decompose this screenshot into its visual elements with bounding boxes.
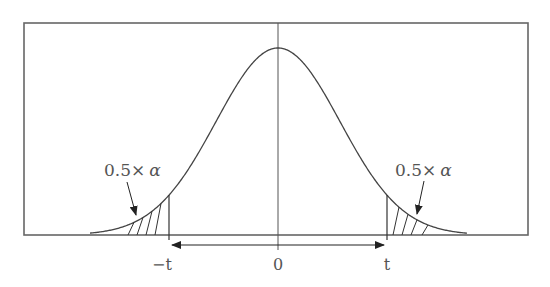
hatch-line bbox=[402, 214, 408, 235]
hatch-line bbox=[393, 207, 399, 235]
right-tail-pointer-arrow bbox=[417, 181, 424, 214]
zero-label: 0 bbox=[273, 255, 283, 274]
neg-t-label: −t bbox=[152, 255, 172, 274]
diagram-canvas: 0.5×α 0.5×α −t 0 t bbox=[0, 0, 550, 287]
right-tail-label: 0.5×α bbox=[395, 160, 452, 180]
right-tail-label-prefix: 0.5× bbox=[395, 160, 436, 180]
left-tail-pointer-arrow bbox=[127, 182, 136, 215]
left-tail-label-prefix: 0.5× bbox=[104, 160, 145, 180]
pos-t-label: t bbox=[384, 255, 391, 274]
left-tail-label: 0.5×α bbox=[104, 160, 161, 180]
alpha-symbol: α bbox=[149, 160, 161, 180]
plot-frame bbox=[24, 23, 528, 235]
hatch-line bbox=[422, 225, 428, 235]
right-tail-hatching bbox=[393, 207, 428, 235]
t-distribution-diagram: 0.5×α 0.5×α −t 0 t bbox=[0, 0, 550, 287]
hatch-line bbox=[411, 220, 417, 235]
alpha-symbol: α bbox=[440, 160, 452, 180]
